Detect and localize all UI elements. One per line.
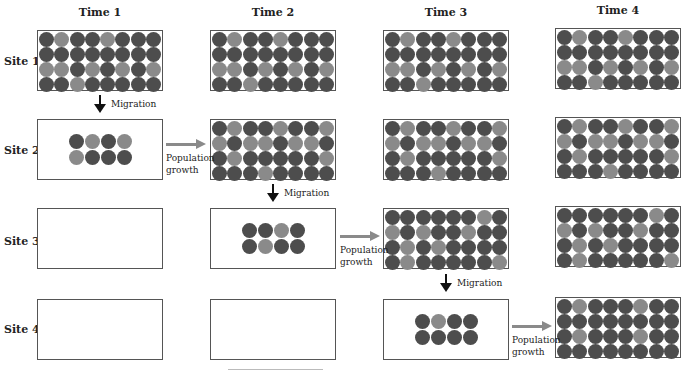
individual-dark	[477, 255, 492, 270]
individual-dark	[477, 62, 492, 77]
individual-dark	[416, 47, 431, 62]
individual-dark	[603, 329, 618, 344]
individual-dark	[603, 149, 618, 164]
individual-dark	[649, 344, 664, 359]
individual-dark	[304, 121, 319, 136]
arrow-down-icon	[440, 274, 452, 292]
individual-light	[603, 164, 618, 179]
individual-dark	[400, 210, 415, 225]
individual-light	[633, 60, 648, 75]
individual-light	[400, 240, 415, 255]
header-time-2: Time 2	[210, 6, 336, 19]
individual-dark	[400, 77, 415, 92]
individual-dark	[618, 299, 633, 314]
individual-dark	[664, 30, 679, 45]
individual-dark	[572, 75, 587, 90]
individual-light	[385, 136, 400, 151]
individual-dark	[288, 151, 303, 166]
individual-light	[431, 62, 446, 77]
population-grid	[556, 29, 680, 88]
individual-dark	[290, 223, 305, 238]
individual-dark	[117, 150, 132, 165]
individual-dark	[400, 47, 415, 62]
individual-light	[100, 32, 115, 47]
individual-dark	[572, 134, 587, 149]
individual-light	[633, 134, 648, 149]
individual-light	[664, 60, 679, 75]
individual-dark	[463, 330, 478, 345]
individual-light	[258, 239, 273, 254]
individual-dark	[477, 77, 492, 92]
individual-light	[400, 151, 415, 166]
individual-dark	[446, 210, 461, 225]
individual-dark	[431, 225, 446, 240]
site-3-time-4-box	[555, 206, 681, 267]
individual-dark	[477, 32, 492, 47]
individual-dark	[212, 77, 227, 92]
individual-dark	[131, 77, 146, 92]
founder-cluster	[414, 314, 478, 346]
arrow-right-icon	[166, 140, 206, 150]
individual-dark	[618, 208, 633, 223]
individual-dark	[447, 314, 462, 329]
individual-dark	[85, 47, 100, 62]
individual-light	[603, 134, 618, 149]
individual-light	[416, 136, 431, 151]
individual-light	[633, 223, 648, 238]
individual-dark	[557, 45, 572, 60]
individual-dark	[461, 210, 476, 225]
individual-dark	[603, 119, 618, 134]
individual-light	[304, 136, 319, 151]
individual-light	[258, 136, 273, 151]
individual-dark	[588, 329, 603, 344]
individual-light	[243, 77, 258, 92]
individual-dark	[633, 119, 648, 134]
individual-dark	[304, 166, 319, 181]
individual-light	[431, 314, 446, 329]
individual-dark	[618, 238, 633, 253]
individual-dark	[618, 149, 633, 164]
individual-dark	[54, 47, 69, 62]
individual-light	[633, 329, 648, 344]
individual-dark	[633, 149, 648, 164]
individual-dark	[227, 136, 242, 151]
individual-dark	[492, 240, 507, 255]
individual-dark	[649, 149, 664, 164]
migration-label: Migration	[111, 99, 156, 109]
individual-light	[461, 62, 476, 77]
individual-light	[477, 210, 492, 225]
individual-dark	[664, 238, 679, 253]
site-3-time-1-box	[37, 208, 163, 269]
individual-dark	[446, 255, 461, 270]
individual-dark	[212, 121, 227, 136]
individual-dark	[618, 329, 633, 344]
individual-dark	[649, 60, 664, 75]
individual-light	[557, 223, 572, 238]
individual-dark	[446, 62, 461, 77]
individual-dark	[588, 238, 603, 253]
individual-dark	[603, 299, 618, 314]
individual-dark	[633, 253, 648, 268]
individual-dark	[477, 166, 492, 181]
arrow-right-icon	[340, 232, 380, 242]
individual-dark	[70, 47, 85, 62]
individual-dark	[416, 210, 431, 225]
individual-dark	[572, 314, 587, 329]
individual-dark	[664, 314, 679, 329]
individual-dark	[461, 32, 476, 47]
individual-dark	[258, 121, 273, 136]
population-grid	[556, 298, 680, 357]
individual-light	[492, 151, 507, 166]
individual-dark	[131, 62, 146, 77]
individual-dark	[461, 255, 476, 270]
individual-dark	[664, 223, 679, 238]
individual-dark	[557, 119, 572, 134]
population-grid	[556, 207, 680, 266]
individual-dark	[649, 223, 664, 238]
individual-dark	[431, 255, 446, 270]
individual-dark	[633, 344, 648, 359]
individual-light	[385, 225, 400, 240]
individual-dark	[649, 253, 664, 268]
individual-dark	[431, 210, 446, 225]
individual-dark	[557, 208, 572, 223]
